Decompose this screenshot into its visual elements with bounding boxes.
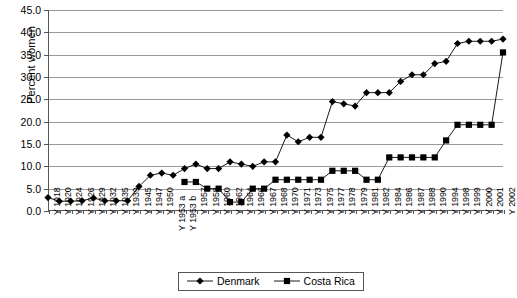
data-point-marker <box>317 134 324 141</box>
data-point-marker <box>341 168 347 174</box>
data-point-marker <box>44 194 51 201</box>
chart-legend: DenmarkCosta Rica <box>178 272 364 291</box>
x-axis-tick-label: Y 1977 <box>336 187 346 215</box>
data-point-marker <box>408 71 415 78</box>
data-point-marker <box>181 179 187 185</box>
series-costa-rica <box>181 49 506 205</box>
data-point-marker <box>352 168 358 174</box>
data-point-marker <box>215 165 222 172</box>
data-point-marker <box>477 122 483 128</box>
x-axis-tick-label: Y 1970 <box>290 187 300 215</box>
x-axis-tick-label: Y 2001 <box>495 187 505 215</box>
data-point-marker <box>170 172 177 179</box>
x-axis-tick-label: Y 1924 <box>74 187 84 215</box>
y-axis-tick-label: 25.0 <box>21 93 41 105</box>
data-point-marker <box>420 154 426 160</box>
data-point-marker <box>500 49 506 55</box>
x-axis-tick-label: Y 1962 <box>234 187 244 215</box>
data-point-marker <box>307 177 313 183</box>
x-axis-tick-label: Y 1981 <box>370 187 380 215</box>
x-axis-tick-label: Y 1920 <box>63 187 73 215</box>
y-axis-tick-label: 15.0 <box>21 138 41 150</box>
data-point-marker <box>306 134 313 141</box>
x-axis-tick-label: Y 1958 <box>211 187 221 215</box>
x-axis-tick-label: Y 1947 <box>154 187 164 215</box>
data-point-marker <box>226 158 233 165</box>
y-axis-tick-label: 10.0 <box>21 160 41 172</box>
y-axis-tick-label: 5.0 <box>26 183 41 195</box>
x-axis-tick-label: Y 1999 <box>472 187 482 215</box>
x-axis-tick-label: Y 1964 <box>245 187 255 215</box>
data-point-marker <box>283 131 290 138</box>
data-point-marker <box>363 177 369 183</box>
y-axis-tick-label: 35.0 <box>21 49 41 61</box>
x-axis-tick-label: Y 1960 <box>222 187 232 215</box>
data-point-marker <box>489 122 495 128</box>
x-axis-tick-label: Y 2000 <box>484 187 494 215</box>
data-point-marker <box>249 163 256 170</box>
x-axis-tick-label: Y 1966 <box>256 187 266 215</box>
data-point-marker <box>398 154 404 160</box>
x-axis-tick-label: Y 1988 <box>427 187 437 215</box>
x-axis-tick-label: Y 1945 <box>143 187 153 215</box>
data-point-marker <box>477 38 484 45</box>
data-point-marker <box>329 168 335 174</box>
data-point-marker <box>374 89 381 96</box>
x-axis-tick-label: Y 1967 <box>268 187 278 215</box>
y-axis-tick-label: 40.0 <box>21 26 41 38</box>
x-axis-tick-label: Y 1932 <box>108 187 118 215</box>
x-axis-tick-label: Y 1939 <box>131 187 141 215</box>
data-point-marker <box>261 158 268 165</box>
data-point-marker <box>443 137 449 143</box>
x-axis-tick-label: Y 1990 <box>438 187 448 215</box>
y-axis-tick-label: 45.0 <box>21 4 41 16</box>
x-axis-tick-label: Y 1994 <box>450 187 460 215</box>
data-point-marker <box>409 154 415 160</box>
data-point-marker <box>386 154 392 160</box>
x-axis-tick-label: Y 1973 <box>313 187 323 215</box>
data-point-marker <box>454 122 460 128</box>
x-axis-tick-label: Y 2002 <box>507 187 517 215</box>
x-axis-tick-label: Y 1971 <box>302 187 312 215</box>
series-layer <box>48 10 503 211</box>
y-axis-tick-label: 0.0 <box>26 205 41 217</box>
x-axis-tick-label: Y 1929 <box>97 187 107 215</box>
x-axis-tick-label: Y 1968 <box>279 187 289 215</box>
x-axis-tick-label: Y 1935 <box>120 187 130 215</box>
x-axis-tick-label: Y 1950 <box>165 187 175 215</box>
legend-entry-denmark[interactable]: Denmark <box>187 275 260 287</box>
y-axis-tick-label: 30.0 <box>21 71 41 83</box>
data-point-marker <box>465 38 472 45</box>
data-point-marker <box>466 122 472 128</box>
y-axis-tick-label: 20.0 <box>21 116 41 128</box>
diamond-marker-icon <box>187 276 213 286</box>
square-marker-icon <box>274 276 300 286</box>
x-axis-tick-label: Y 1998 <box>461 187 471 215</box>
data-point-marker <box>375 177 381 183</box>
data-point-marker <box>158 169 165 176</box>
x-axis-tick-label: Y 1978 <box>347 187 357 215</box>
data-point-marker <box>272 158 279 165</box>
x-axis-tick-label: Y 1918 <box>52 187 62 215</box>
x-axis-tick-label: Y 1957 <box>199 187 209 215</box>
data-point-marker <box>454 40 461 47</box>
data-point-marker <box>295 177 301 183</box>
data-point-marker <box>499 35 506 42</box>
data-point-marker <box>329 98 336 105</box>
legend-entry-costa-rica[interactable]: Costa Rica <box>274 275 355 287</box>
data-point-marker <box>443 58 450 65</box>
x-axis-tick-label: Y 1953 a <box>177 196 187 231</box>
data-point-marker <box>432 154 438 160</box>
data-point-marker <box>284 177 290 183</box>
x-axis-tick-label: Y 1979 <box>359 187 369 215</box>
data-point-marker <box>340 100 347 107</box>
legend-label: Denmark <box>217 275 260 287</box>
x-axis-labels: Y 1918Y 1920Y 1924Y 1926Y 1929Y 1932Y 19… <box>48 215 503 277</box>
data-point-marker <box>204 165 211 172</box>
data-point-marker <box>488 38 495 45</box>
x-axis-tick-label: Y 1986 <box>404 187 414 215</box>
x-axis-tick-label: Y 1987 <box>416 187 426 215</box>
data-point-marker <box>193 179 199 185</box>
data-point-marker <box>181 165 188 172</box>
